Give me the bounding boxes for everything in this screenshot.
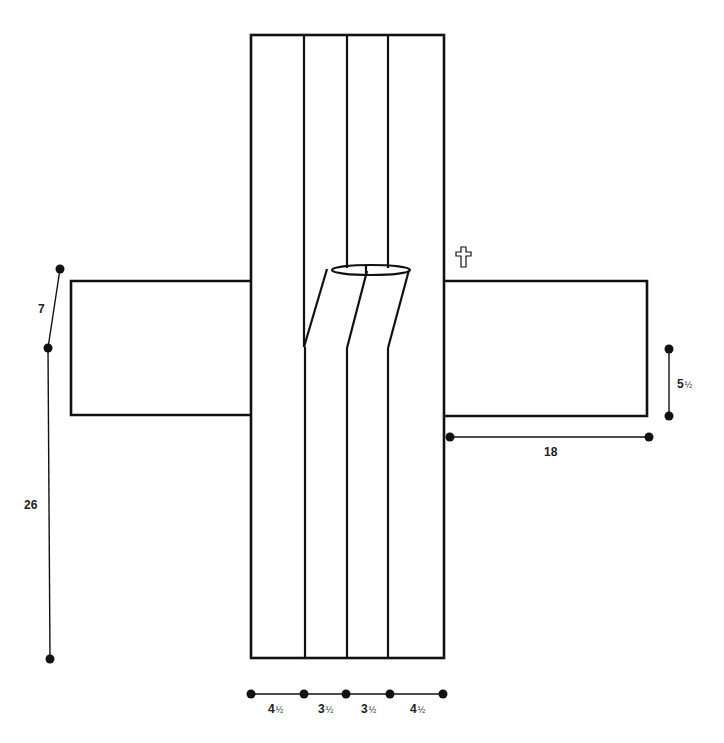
cross-symbol-icon xyxy=(456,247,471,267)
dim-label-strip-1: 4½ xyxy=(268,702,284,716)
left-arm xyxy=(71,281,251,415)
dim-label-26: 26 xyxy=(24,498,38,512)
dim-label-5-half: 5½ xyxy=(677,377,693,391)
dim-dot xyxy=(665,345,674,354)
dim-label-strip-2: 3½ xyxy=(318,702,334,716)
dim-line-26 xyxy=(48,348,50,659)
pattern-diagram: 7 26 5½ 18 4½ 3½ 3½ 4½ xyxy=(0,0,724,743)
twist-diagonal-3 xyxy=(388,270,409,348)
dim-dot xyxy=(300,690,309,699)
dim-dot xyxy=(665,412,674,421)
dim-dot xyxy=(386,690,395,699)
twist-ellipse xyxy=(332,265,410,275)
dim-label-7: 7 xyxy=(38,302,45,316)
dim-dot xyxy=(439,690,448,699)
dim-label-18: 18 xyxy=(544,445,558,459)
dim-label-strip-3: 3½ xyxy=(361,702,377,716)
dim-dot xyxy=(247,690,256,699)
right-arm xyxy=(444,281,647,416)
twist-diagonal-1 xyxy=(304,269,327,347)
dim-dot xyxy=(56,265,65,274)
dim-dot xyxy=(446,433,455,442)
dim-dot xyxy=(645,433,654,442)
twist-diagonal-2 xyxy=(347,271,367,348)
dim-dot xyxy=(46,655,55,664)
dim-line-7 xyxy=(48,269,60,348)
dim-dot xyxy=(342,690,351,699)
dim-label-strip-4: 4½ xyxy=(410,702,426,716)
